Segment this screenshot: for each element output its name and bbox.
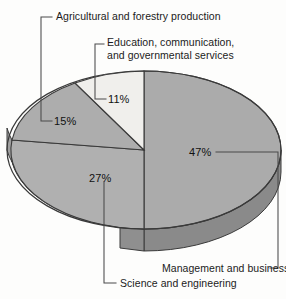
value-label-education: 11% [108, 93, 130, 105]
label-science-and-engineering: Science and engineering [120, 277, 237, 290]
slice-science [11, 140, 144, 229]
label-management-and-business: Management and business [162, 262, 286, 275]
label-education-line-2: and governmental services [107, 49, 267, 62]
value-label-science: 27% [89, 172, 111, 184]
label-agricultural-and-forestry-production: Agricultural and forestry production [56, 10, 221, 23]
side-wall-management-cut [120, 226, 144, 251]
pie-chart-figure: Agricultural and forestry production Edu… [0, 0, 286, 299]
value-label-agricultural: 15% [54, 115, 76, 127]
value-label-management: 47% [189, 146, 211, 158]
pie-top-face [7, 71, 281, 229]
label-education-line-1: Education, communication, [107, 36, 267, 49]
